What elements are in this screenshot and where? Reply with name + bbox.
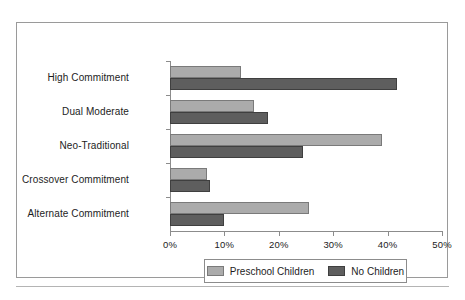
x-axis-tick-label: 0% [163, 239, 177, 250]
legend-label-preschool-children: Preschool Children [230, 266, 315, 277]
bar [170, 146, 303, 158]
x-axis-tick [279, 231, 280, 236]
bar [170, 66, 241, 78]
x-axis-tick [170, 231, 171, 236]
legend-entry-no-children: No Children [328, 266, 404, 277]
legend-swatch-preschool-children [207, 266, 224, 276]
legend-entry-preschool-children: Preschool Children [207, 266, 315, 277]
category-label: Crossover Commitment [22, 174, 129, 185]
bar [170, 180, 210, 192]
category-label: Neo-Traditional [60, 140, 130, 151]
y-axis-tick [166, 197, 170, 198]
chart-frame: High CommitmentDual ModerateNeo-Traditio… [16, 22, 448, 278]
x-axis-tick-label: 20% [269, 239, 289, 250]
category-label: High Commitment [47, 72, 129, 83]
x-axis-tick [224, 231, 225, 236]
y-axis-tick [166, 95, 170, 96]
category-label: Dual Moderate [62, 106, 129, 117]
figure: High CommitmentDual ModerateNeo-Traditio… [0, 0, 465, 300]
category-label: Alternate Commitment [28, 208, 129, 219]
x-axis-line [170, 231, 442, 232]
x-axis-tick-label: 10% [215, 239, 235, 250]
legend-swatch-no-children [328, 266, 345, 276]
x-axis-tick-label: 30% [323, 239, 343, 250]
x-axis-tick [333, 231, 334, 236]
bar [170, 100, 254, 112]
x-axis-tick-label: 50% [432, 239, 452, 250]
x-axis-tick-label: 40% [378, 239, 398, 250]
bar [170, 168, 207, 180]
legend: Preschool Children No Children [204, 259, 407, 283]
bottom-rule [16, 286, 449, 287]
y-axis-tick [166, 61, 170, 62]
bar [170, 214, 224, 226]
y-axis-tick [166, 163, 170, 164]
bar [170, 78, 397, 90]
x-axis-tick [442, 231, 443, 236]
bar [170, 112, 268, 124]
bar [170, 134, 382, 146]
x-axis-tick [388, 231, 389, 236]
y-axis-tick [166, 129, 170, 130]
plot-area [170, 61, 442, 231]
bar [170, 202, 309, 214]
legend-label-no-children: No Children [351, 266, 404, 277]
